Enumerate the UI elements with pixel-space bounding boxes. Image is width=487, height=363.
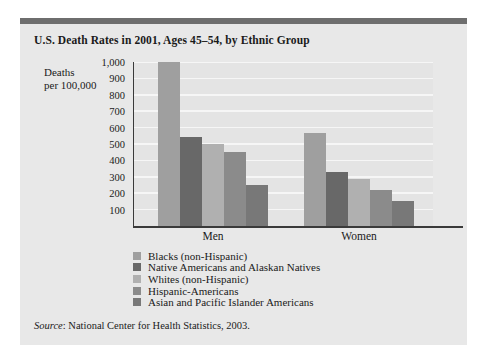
bar [392, 201, 414, 226]
legend-item: Native Americans and Alaskan Natives [133, 262, 320, 274]
bar [202, 144, 224, 226]
plot-area [134, 62, 433, 226]
bar [158, 62, 180, 226]
y-tick-label: 600 [109, 122, 125, 133]
legend-item: Hispanic-Americans [133, 285, 320, 297]
top-accent-bar [20, 18, 467, 24]
y-tick-label: 700 [109, 106, 125, 117]
y-tick-label: 400 [109, 155, 125, 166]
x-axis-group-label: Men [158, 230, 268, 242]
source-value: : National Center for Health Statistics,… [63, 320, 250, 331]
legend-label: Hispanic-Americans [148, 285, 238, 297]
chart-legend: Blacks (non-Hispanic)Native Americans an… [133, 250, 320, 308]
bar [304, 133, 326, 226]
bar [326, 172, 348, 226]
bar [224, 152, 246, 226]
legend-swatch [133, 252, 141, 260]
legend-swatch [133, 298, 141, 306]
y-tick-label: 500 [109, 139, 125, 150]
bar [370, 190, 392, 226]
y-axis-tick-labels: 1002003004005006007008009001,000 [61, 62, 131, 226]
y-tick-label: 1,000 [101, 57, 125, 68]
legend-swatch [133, 263, 141, 271]
legend-label: Native Americans and Alaskan Natives [148, 261, 320, 273]
bar [180, 137, 202, 226]
y-tick-label: 800 [109, 89, 125, 100]
y-tick-label: 200 [109, 188, 125, 199]
legend-item: Blacks (non-Hispanic) [133, 250, 320, 262]
legend-label: Blacks (non-Hispanic) [148, 250, 247, 262]
legend-swatch [133, 287, 141, 295]
bar [246, 185, 268, 226]
source-note: Source: National Center for Health Stati… [34, 320, 250, 331]
x-axis-group-label: Women [304, 230, 414, 242]
chart-title: U.S. Death Rates in 2001, Ages 45–54, by… [34, 34, 310, 46]
legend-item: Asian and Pacific Islander Americans [133, 296, 320, 308]
plot-region: 1002003004005006007008009001,000 [133, 62, 433, 226]
y-tick-label: 900 [109, 73, 125, 84]
x-axis-line [133, 226, 463, 228]
y-tick-label: 100 [109, 204, 125, 215]
bar [348, 179, 370, 226]
source-label: Source [34, 320, 63, 331]
legend-item: Whites (non-Hispanic) [133, 273, 320, 285]
y-tick-label: 300 [109, 171, 125, 182]
legend-swatch [133, 275, 141, 283]
legend-label: Whites (non-Hispanic) [148, 273, 249, 285]
chart-card: U.S. Death Rates in 2001, Ages 45–54, by… [20, 18, 467, 345]
legend-label: Asian and Pacific Islander Americans [148, 296, 314, 308]
